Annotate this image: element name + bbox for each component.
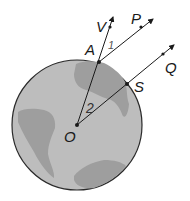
label-P: P xyxy=(131,10,141,27)
point-Q xyxy=(161,52,164,55)
label-V: V xyxy=(96,18,108,35)
point-S xyxy=(125,82,129,86)
angle-1-label: 1 xyxy=(108,39,114,51)
angle-2-label: 2 xyxy=(85,100,94,116)
label-Q: Q xyxy=(165,59,177,76)
label-A: A xyxy=(84,41,95,58)
globe-diagram: V P A Q S O 1 2 xyxy=(0,0,190,201)
point-O xyxy=(75,123,79,127)
point-A xyxy=(97,60,101,64)
point-V xyxy=(108,25,111,28)
label-O: O xyxy=(64,128,76,145)
label-S: S xyxy=(134,78,144,95)
